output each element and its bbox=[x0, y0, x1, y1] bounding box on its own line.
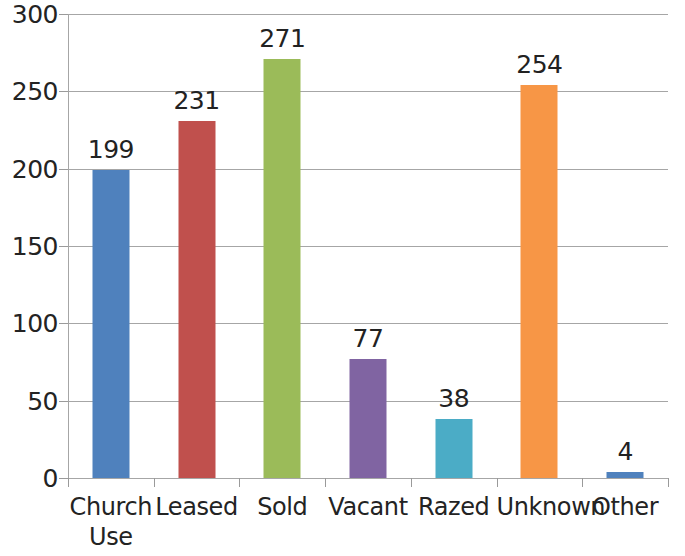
y-axis-tick-label: 100 bbox=[2, 311, 58, 336]
y-axis-tick-label: 300 bbox=[2, 2, 58, 27]
x-axis-category-label-line: Use bbox=[68, 522, 154, 552]
bar-value-label: 4 bbox=[617, 439, 632, 464]
x-axis-category-label: Razed bbox=[411, 492, 497, 522]
bar[interactable] bbox=[264, 59, 301, 478]
x-axis-category-labels: ChurchUseLeasedSoldVacantRazedUnknownOth… bbox=[68, 492, 668, 556]
x-axis-tick-mark bbox=[68, 478, 69, 487]
bar-group: 199 bbox=[68, 14, 154, 478]
x-axis-tick-mark bbox=[582, 478, 583, 487]
y-axis-tick-mark bbox=[59, 14, 68, 15]
y-axis-tick-mark bbox=[59, 478, 68, 479]
bar-value-label: 38 bbox=[438, 386, 469, 411]
bar-value-label: 77 bbox=[353, 326, 384, 351]
x-axis-category-label: Other bbox=[582, 492, 668, 522]
x-axis-category-label-line: Leased bbox=[154, 492, 240, 522]
x-axis-tick-marks bbox=[68, 478, 668, 488]
x-axis-category-label-line: Vacant bbox=[325, 492, 411, 522]
y-axis-tick-mark bbox=[59, 91, 68, 92]
bar-group: 271 bbox=[239, 14, 325, 478]
x-axis-tick-mark bbox=[154, 478, 155, 487]
bar-value-label: 231 bbox=[173, 88, 219, 113]
x-axis-category-label: Sold bbox=[239, 492, 325, 522]
bar-group: 4 bbox=[582, 14, 668, 478]
y-axis-tick-label: 150 bbox=[2, 234, 58, 259]
x-axis-category-label: Vacant bbox=[325, 492, 411, 522]
x-axis-tick-mark bbox=[411, 478, 412, 487]
y-axis-tick-mark bbox=[59, 246, 68, 247]
bar[interactable] bbox=[92, 170, 129, 478]
bar-group: 38 bbox=[411, 14, 497, 478]
y-axis-tick-label: 250 bbox=[2, 79, 58, 104]
y-axis-tick-label: 0 bbox=[2, 466, 58, 491]
bar-chart: 300250200150100500 19923127177382544 Chu… bbox=[0, 0, 685, 556]
bar[interactable] bbox=[521, 85, 558, 478]
x-axis-category-label-line: Other bbox=[582, 492, 668, 522]
bar-value-label: 199 bbox=[88, 137, 134, 162]
bar-group: 77 bbox=[325, 14, 411, 478]
x-axis-tick-mark bbox=[497, 478, 498, 487]
x-axis-category-label: Unknown bbox=[497, 492, 583, 522]
bar-value-label: 271 bbox=[259, 26, 305, 51]
bar-group: 254 bbox=[497, 14, 583, 478]
bar-group: 231 bbox=[154, 14, 240, 478]
y-axis-tick-label: 50 bbox=[2, 388, 58, 413]
x-axis-category-label: Leased bbox=[154, 492, 240, 522]
x-axis-tick-mark bbox=[239, 478, 240, 487]
plot-area: 19923127177382544 bbox=[68, 14, 668, 478]
bar-value-label: 254 bbox=[516, 52, 562, 77]
x-axis-tick-mark bbox=[325, 478, 326, 487]
bar[interactable] bbox=[178, 121, 215, 478]
x-axis-category-label: ChurchUse bbox=[68, 492, 154, 552]
x-axis-tick-mark bbox=[668, 478, 669, 487]
x-axis-category-label-line: Sold bbox=[239, 492, 325, 522]
y-axis-tick-mark bbox=[59, 169, 68, 170]
y-axis-tick-mark bbox=[59, 401, 68, 402]
x-axis-category-label-line: Church bbox=[68, 492, 154, 522]
bar[interactable] bbox=[349, 359, 386, 478]
y-axis-tick-mark bbox=[59, 323, 68, 324]
x-axis-category-label-line: Razed bbox=[411, 492, 497, 522]
y-axis-tick-label: 200 bbox=[2, 156, 58, 181]
x-axis-category-label-line: Unknown bbox=[497, 492, 583, 522]
bar[interactable] bbox=[435, 419, 472, 478]
y-axis-tick-labels: 300250200150100500 bbox=[0, 0, 58, 556]
